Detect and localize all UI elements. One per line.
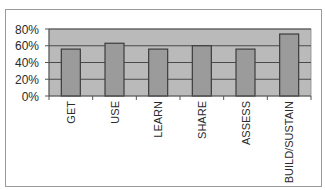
bar-build-sustain [280,34,299,96]
x-category-label: USE [109,101,121,124]
x-category-label: GET [65,101,77,124]
y-tick-label: 20% [15,73,39,87]
bar-use [105,43,124,96]
y-tick-label: 0% [22,90,40,104]
bar-chart: 0%20%40%60%80% GETUSELEARNSHAREASSESSBUI… [0,0,325,190]
bar-share [192,46,211,96]
x-category-label: LEARN [152,101,164,138]
x-category-label: SHARE [196,101,208,139]
x-category-label: BUILD/SUSTAIN [283,101,295,183]
bar-get [61,49,80,96]
y-axis-tick-labels: 0%20%40%60%80% [15,23,39,104]
y-tick-label: 60% [15,39,39,53]
x-axis-category-labels: GETUSELEARNSHAREASSESSBUILD/SUSTAIN [65,101,295,184]
y-tick-label: 80% [15,23,39,37]
x-category-label: ASSESS [240,101,252,145]
bar-assess [236,49,255,96]
bar-learn [149,49,168,96]
y-tick-label: 40% [15,56,39,70]
